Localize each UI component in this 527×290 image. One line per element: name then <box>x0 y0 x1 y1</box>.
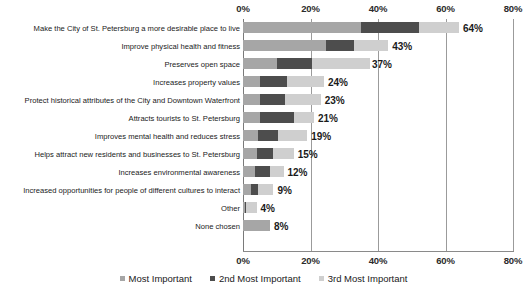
bar-segment-2 <box>260 112 294 123</box>
bar-value-label: 21% <box>318 113 338 124</box>
category-label: Preserves open space <box>164 60 240 69</box>
legend-item: 3rd Most Important <box>319 273 408 284</box>
stacked-bar <box>243 202 513 213</box>
stacked-bar <box>243 94 513 105</box>
category-label: Make the City of St. Petersburg a more d… <box>34 24 240 33</box>
bar-value-label: 37% <box>372 59 392 70</box>
category-label: Increased opportunities for people of di… <box>23 186 240 195</box>
bar-segment-3 <box>294 112 314 123</box>
bar-row: Improves mental health and reduces stres… <box>0 127 527 145</box>
bar-segment-1 <box>243 40 326 51</box>
category-label: Protect historical attributes of the Cit… <box>25 96 240 105</box>
category-label: Helps attract new residents and business… <box>34 150 240 159</box>
bar-row: None chosen8% <box>0 217 527 235</box>
bar-value-label: 23% <box>325 95 345 106</box>
x-axis-baseline <box>243 251 514 252</box>
bar-rows: Make the City of St. Petersburg a more d… <box>0 19 527 241</box>
bar-row: Attracts tourists to St. Petersburg21% <box>0 109 527 127</box>
stacked-bar <box>243 112 513 123</box>
bar-row: Preserves open space37% <box>0 55 527 73</box>
legend-label: 2nd Most Important <box>219 273 301 284</box>
x-tick-label-60pct: 60% <box>436 255 454 266</box>
x-tick-label-80pct: 80% <box>504 3 522 14</box>
bar-row: Protect historical attributes of the Cit… <box>0 91 527 109</box>
bar-segment-2 <box>258 130 278 141</box>
x-tick-label-60pct: 60% <box>436 3 454 14</box>
bar-segment-2 <box>251 184 258 195</box>
bar-segment-1 <box>243 184 251 195</box>
bar-segment-3 <box>273 148 293 159</box>
bar-segment-3 <box>258 184 273 195</box>
bar-segment-2 <box>260 94 285 105</box>
category-label: Other <box>221 204 240 213</box>
legend-item: Most Important <box>120 273 192 284</box>
x-tick-label-80pct: 80% <box>504 255 522 266</box>
bar-value-label: 8% <box>274 221 288 232</box>
bar-value-label: 4% <box>261 203 275 214</box>
bar-segment-1 <box>243 130 258 141</box>
bar-segment-2 <box>326 40 355 51</box>
legend-swatch-icon <box>319 276 324 281</box>
x-tick-label-40pct: 40% <box>369 255 387 266</box>
bar-segment-2 <box>361 22 418 33</box>
bar-segment-3 <box>287 76 324 87</box>
stacked-bar <box>243 40 513 51</box>
bar-value-label: 19% <box>311 131 331 142</box>
bar-value-label: 15% <box>298 149 318 160</box>
bar-segment-3 <box>246 202 256 213</box>
category-label: Improve physical health and fitness <box>121 42 240 51</box>
bar-value-label: 64% <box>463 23 483 34</box>
legend-swatch-icon <box>120 276 125 281</box>
bar-segment-1 <box>243 166 255 177</box>
legend-label: Most Important <box>129 273 192 284</box>
bar-value-label: 43% <box>392 41 412 52</box>
bar-segment-1 <box>243 112 260 123</box>
chart-legend: Most Important2nd Most Important3rd Most… <box>0 270 527 286</box>
bar-segment-1 <box>243 58 277 69</box>
bar-segment-3 <box>419 22 460 33</box>
x-axis-bottom: 0%20%40%60%80% <box>0 255 527 269</box>
bar-value-label: 12% <box>288 167 308 178</box>
bar-segment-3 <box>312 58 369 69</box>
stacked-bar-chart: 0%20%40%60%80% Make the City of St. Pete… <box>0 0 527 290</box>
x-tick-label-0pct: 0% <box>236 3 249 14</box>
bar-row: Improve physical health and fitness43% <box>0 37 527 55</box>
bar-segment-2 <box>255 166 270 177</box>
stacked-bar <box>243 130 513 141</box>
bar-segment-1 <box>243 148 257 159</box>
bar-segment-3 <box>270 166 284 177</box>
legend-swatch-icon <box>210 276 215 281</box>
x-tick-label-20pct: 20% <box>301 255 319 266</box>
bar-segment-3 <box>285 94 320 105</box>
bar-segment-2 <box>260 76 287 87</box>
bar-segment-2 <box>277 58 312 69</box>
stacked-bar <box>243 148 513 159</box>
legend-item: 2nd Most Important <box>210 273 301 284</box>
legend-label: 3rd Most Important <box>328 273 408 284</box>
bar-value-label: 24% <box>328 77 348 88</box>
x-tick-label-0pct: 0% <box>236 255 249 266</box>
x-tick-label-40pct: 40% <box>369 3 387 14</box>
bar-row: Make the City of St. Petersburg a more d… <box>0 19 527 37</box>
bar-segment-1 <box>243 220 270 231</box>
bar-row: Increases property values24% <box>0 73 527 91</box>
stacked-bar <box>243 166 513 177</box>
x-axis-top: 0%20%40%60%80% <box>0 3 527 17</box>
category-label: Increases environmental awareness <box>118 168 240 177</box>
bar-segment-3 <box>278 130 307 141</box>
bar-row: Increases environmental awareness12% <box>0 163 527 181</box>
stacked-bar <box>243 76 513 87</box>
category-label: Attracts tourists to St. Petersburg <box>129 114 240 123</box>
bar-row: Increased opportunities for people of di… <box>0 181 527 199</box>
bar-segment-2 <box>257 148 274 159</box>
category-label: Improves mental health and reduces stres… <box>95 132 240 141</box>
bar-segment-1 <box>243 22 361 33</box>
bar-row: Helps attract new residents and business… <box>0 145 527 163</box>
category-label: Increases property values <box>153 78 240 87</box>
bar-segment-1 <box>243 76 260 87</box>
bar-segment-1 <box>243 94 260 105</box>
bar-segment-3 <box>354 40 388 51</box>
bar-row: Other4% <box>0 199 527 217</box>
bar-value-label: 9% <box>277 185 291 196</box>
x-tick-label-20pct: 20% <box>301 3 319 14</box>
